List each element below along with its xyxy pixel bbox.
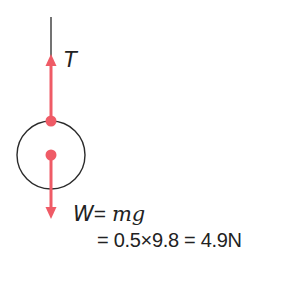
weight-equation-line1: W= mg <box>73 203 145 225</box>
weight-arrow <box>46 150 57 220</box>
weight-formula: mg <box>112 202 145 226</box>
tension-arrowhead-icon <box>46 54 57 66</box>
tension-label: T <box>64 50 77 71</box>
tension-origin-dot <box>46 116 57 127</box>
weight-equation-line2: = 0.5×9.8 = 4.9N <box>97 230 242 250</box>
weight-arrowhead-icon <box>46 207 57 219</box>
weight-equals: = <box>94 202 112 225</box>
center-of-mass-dot <box>46 150 57 161</box>
tension-arrow <box>46 54 57 127</box>
weight-symbol: W <box>73 202 94 226</box>
